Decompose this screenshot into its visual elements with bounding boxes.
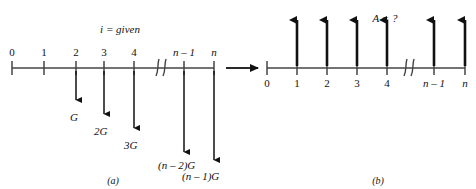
interest-rate-annotation: i = given (100, 24, 140, 35)
diagram-a-tick-label-1: 1 (41, 47, 47, 58)
diagram-b-tick-label-3: 3 (354, 78, 360, 89)
diagram-b-tick-label-1: 1 (294, 78, 300, 89)
diagram-a-flow-label-2: 3G (124, 140, 137, 151)
diagram-b-tick-label-5: n – 1 (423, 78, 445, 89)
diagram-a-tick-label-3: 3 (101, 47, 107, 58)
figure-cash-flow-diagrams: i = given A = ? (a) (b) 01234n – 1nG2G3G… (0, 0, 476, 189)
diagram-a-flow-label-4: (n – 1)G (182, 171, 219, 182)
diagram-a-tick-label-4: 4 (131, 47, 137, 58)
caption-b: (b) (372, 176, 384, 186)
annuity-unknown-annotation: A = ? (373, 13, 398, 24)
diagram-a-tick-label-0: 0 (9, 47, 15, 58)
diagram-a-cash-flow-arrows (76, 71, 214, 160)
diagram-b-tick-label-4: 4 (384, 78, 390, 89)
diagram-a-flow-label-1: 2G (94, 126, 107, 137)
diagram-a-tick-label-5: n – 1 (173, 47, 195, 58)
diagram-a-tick-label-6: n (211, 47, 217, 58)
diagram-a-canvas (0, 0, 476, 189)
diagram-b-tick-label-6: n (462, 78, 468, 89)
caption-a: (a) (107, 176, 119, 186)
diagram-b-tick-label-0: 0 (264, 78, 270, 89)
diagram-a-flow-label-0: G (70, 112, 78, 123)
diagram-a-tick-label-2: 2 (73, 47, 79, 58)
diagram-b-tick-label-2: 2 (324, 78, 330, 89)
diagram-b-cash-flow-arrows (297, 20, 465, 66)
